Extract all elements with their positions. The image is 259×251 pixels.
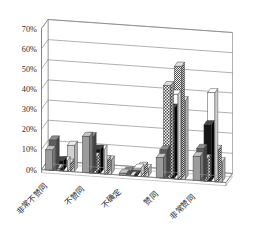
bar xyxy=(156,153,166,177)
x-category-label: 不确定 xyxy=(99,186,123,210)
y-tick-label: 60% xyxy=(22,45,37,54)
y-tick-label: 20% xyxy=(22,125,37,134)
y-tick-label: 0% xyxy=(26,166,37,175)
y-tick-label: 40% xyxy=(22,85,37,94)
x-category-label: 非常赞同 xyxy=(167,192,197,222)
x-category-label: 非常不赞同 xyxy=(14,181,49,216)
y-tick-label: 10% xyxy=(22,145,37,154)
chart-canvas: 0%10%20%30%40%50%60%70% 非常不赞同不赞同不确定赞同非常赞… xyxy=(0,0,259,251)
x-category-label: 不赞同 xyxy=(62,184,86,208)
x-category-label: 赞同 xyxy=(142,189,160,207)
y-tick-label: 30% xyxy=(22,105,37,114)
y-tick-label: 70% xyxy=(22,25,37,34)
x-axis-category-labels: 非常不赞同不赞同不确定赞同非常赞同 xyxy=(14,181,197,221)
bar xyxy=(45,146,55,170)
bar-chart: 0%10%20%30%40%50%60%70% 非常不赞同不赞同不确定赞同非常赞… xyxy=(0,0,259,251)
y-axis-tick-labels: 0%10%20%30%40%50%60%70% xyxy=(22,25,37,175)
y-tick-label: 50% xyxy=(22,65,37,74)
bar xyxy=(193,152,203,180)
